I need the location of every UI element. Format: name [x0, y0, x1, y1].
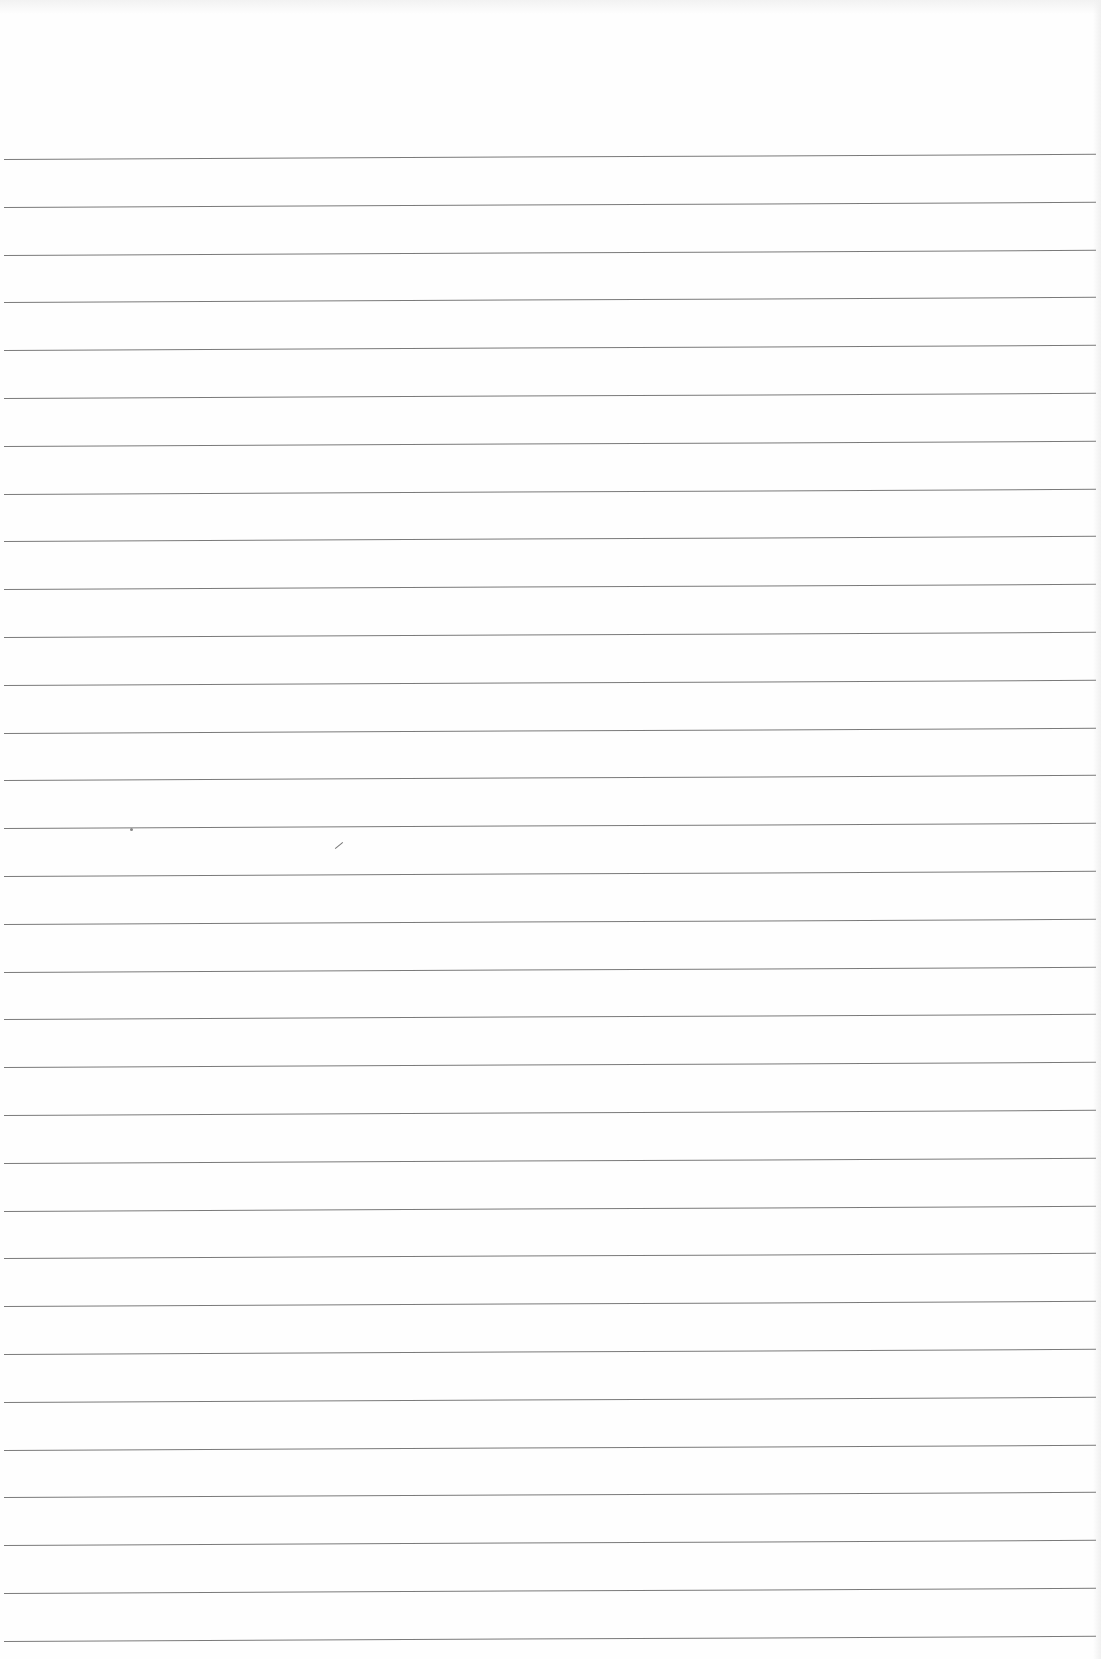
ruled-line — [4, 871, 1096, 877]
ruled-line — [4, 919, 1096, 925]
ruled-line — [4, 1301, 1096, 1307]
ruled-line — [4, 680, 1096, 686]
ruled-line — [4, 441, 1096, 447]
ruled-line — [4, 1540, 1096, 1546]
ruled-line — [4, 154, 1096, 160]
ruled-line — [4, 1062, 1096, 1068]
ruled-line — [4, 1158, 1096, 1164]
ruled-line — [4, 1588, 1096, 1594]
ink-speck — [130, 828, 133, 831]
ruled-line — [4, 1205, 1096, 1211]
ruled-line — [4, 1349, 1096, 1355]
ruled-line — [4, 823, 1096, 829]
scan-top-shadow — [0, 0, 1101, 14]
lined-paper-sheet — [0, 0, 1101, 1659]
ruled-line — [4, 966, 1096, 972]
ruled-line — [4, 584, 1096, 590]
ruled-line — [4, 1397, 1096, 1403]
ruled-line — [4, 1444, 1096, 1450]
pencil-tick-mark — [335, 842, 343, 849]
ruled-line — [4, 1492, 1096, 1498]
ruled-line — [4, 393, 1096, 399]
ruled-line — [4, 775, 1096, 781]
ruled-line — [4, 1253, 1096, 1259]
ruled-line — [4, 488, 1096, 494]
ruled-line — [4, 202, 1096, 208]
ruled-line — [4, 727, 1096, 733]
ruled-line — [4, 1636, 1096, 1642]
ruled-line — [4, 1014, 1096, 1020]
ruled-line — [4, 632, 1096, 638]
scan-right-shadow — [1093, 0, 1101, 1659]
ruled-line — [4, 249, 1096, 255]
ruled-line — [4, 536, 1096, 542]
ruled-line — [4, 297, 1096, 303]
ruled-line — [4, 1110, 1096, 1116]
ruled-line — [4, 345, 1096, 351]
